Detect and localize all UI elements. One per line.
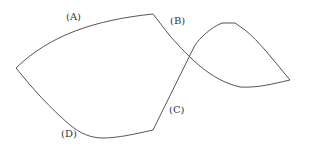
label-a: (A) (66, 11, 81, 22)
segment-d (16, 68, 153, 138)
diagram-canvas: (A) (B) (C) (D) (0, 0, 309, 153)
right-loop (195, 23, 290, 80)
label-c: (C) (169, 104, 185, 115)
segment-c (153, 45, 195, 130)
label-d: (D) (61, 128, 77, 139)
label-b: (B) (170, 15, 185, 26)
segment-a (16, 14, 153, 68)
